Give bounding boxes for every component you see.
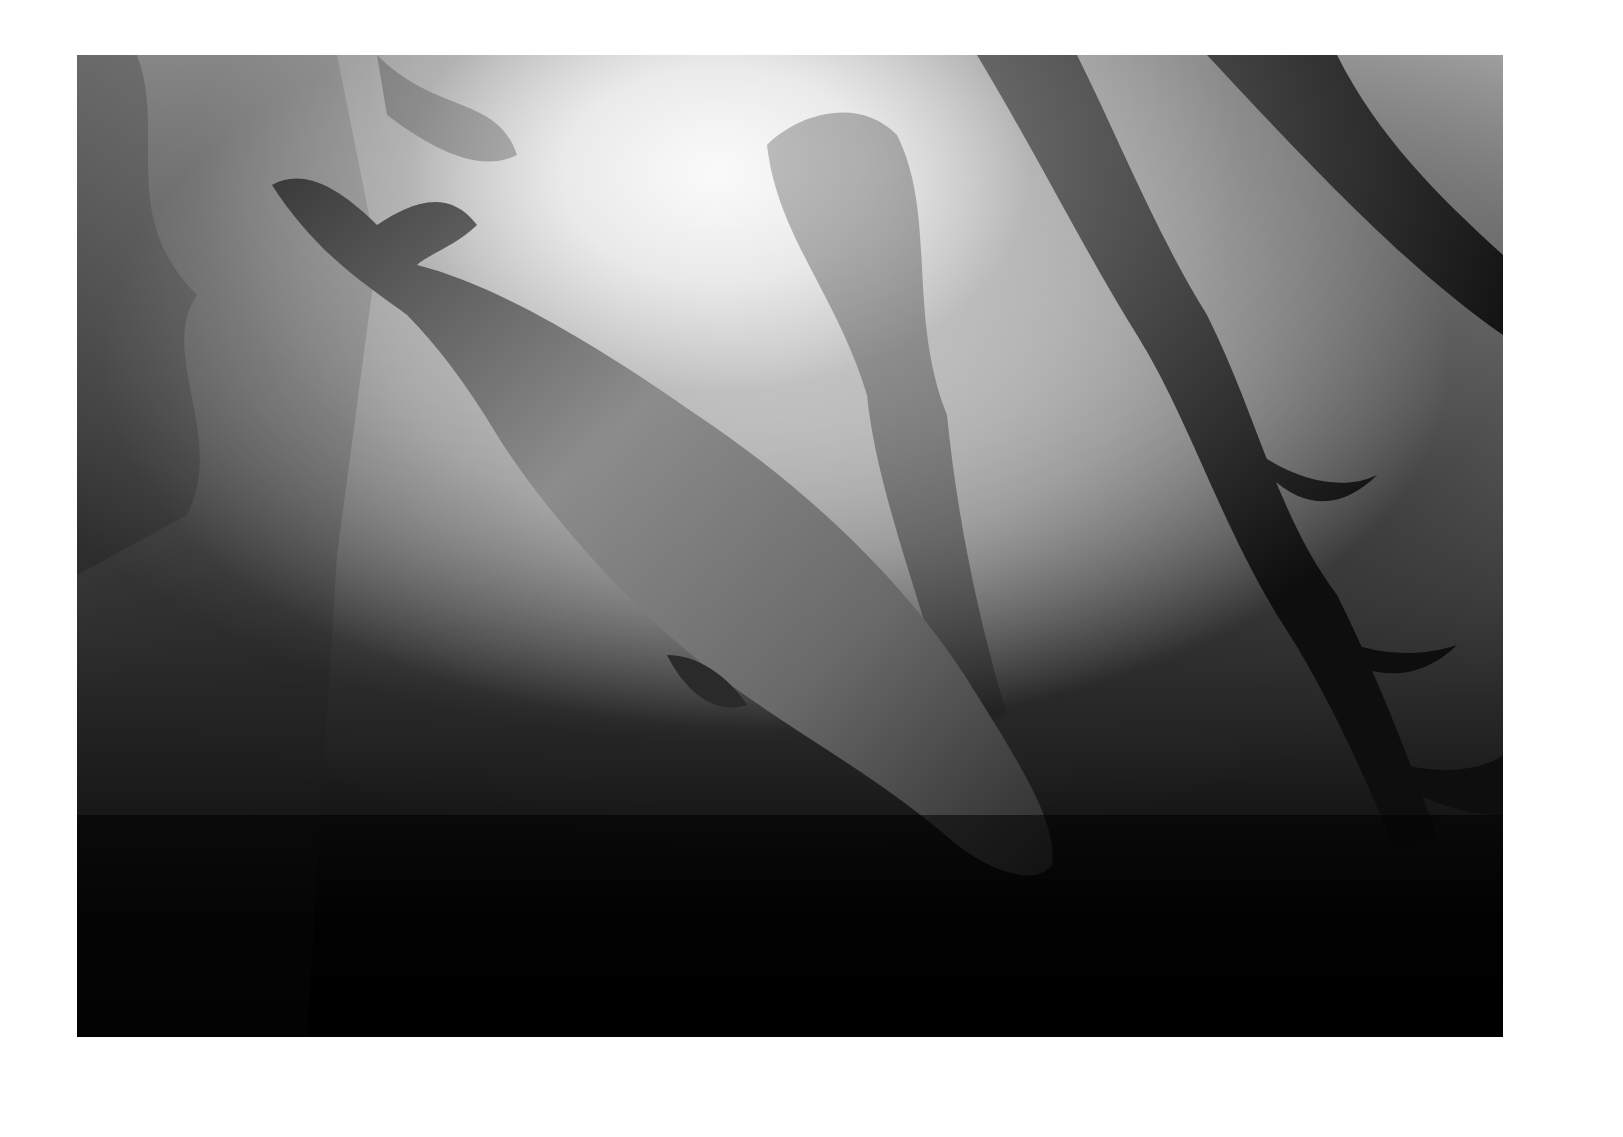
seal-kelp-photo: [77, 55, 1503, 1037]
photo-illustration: [77, 55, 1503, 1037]
